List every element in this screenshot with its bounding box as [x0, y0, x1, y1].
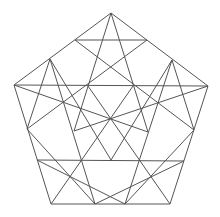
pentagon-star-diagram	[0, 0, 220, 217]
diagram-line	[50, 59, 95, 204]
diagram-line	[37, 160, 184, 161]
diagram-line	[172, 60, 194, 130]
diagram-line	[95, 161, 184, 204]
diagram-line	[111, 60, 172, 160]
diagram-line	[50, 59, 111, 160]
outer-pentagon	[14, 13, 208, 204]
diagram-line	[125, 130, 194, 204]
diagram-line	[27, 40, 147, 129]
diagram-line	[111, 13, 148, 132]
diagram-line	[74, 13, 111, 131]
diagram-line	[37, 160, 125, 204]
diagram-line	[27, 129, 95, 204]
diagram-line	[74, 86, 208, 131]
diagram-line	[14, 85, 208, 86]
